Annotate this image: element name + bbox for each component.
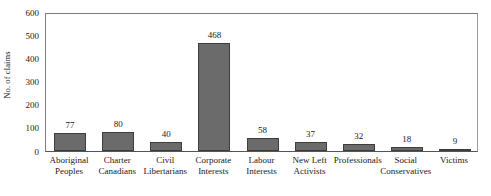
- bar-group: 18: [391, 14, 423, 151]
- plot-area: 778040468583732189: [45, 13, 478, 152]
- x-category-label-line: Activists: [280, 166, 340, 177]
- y-axis-title: No. of claims: [0, 0, 14, 150]
- y-tick-label: 400: [26, 55, 40, 64]
- bar: [150, 142, 182, 151]
- bar: [198, 43, 230, 151]
- bar-group: 9: [439, 14, 471, 151]
- y-tick-label: 300: [26, 78, 40, 87]
- bar: [102, 132, 134, 151]
- bar: [343, 144, 375, 151]
- x-category-label: Victims: [424, 155, 484, 166]
- y-tick-label: 500: [26, 32, 40, 41]
- bar-value-label: 80: [88, 120, 148, 129]
- bar: [247, 138, 279, 151]
- bar-value-label: 9: [425, 137, 485, 146]
- bar-chart-figure: No. of claims 6005004003002001000 778040…: [0, 0, 491, 196]
- bar-group: 58: [247, 14, 279, 151]
- bars-layer: 778040468583732189: [46, 14, 477, 151]
- bar-value-label: 40: [136, 130, 196, 139]
- bar-group: 32: [343, 14, 375, 151]
- y-axis-tick-labels: 6005004003002001000: [14, 0, 42, 160]
- bar-group: 37: [295, 14, 327, 151]
- bar: [295, 142, 327, 151]
- y-tick-label: 600: [26, 9, 40, 18]
- y-tick-label: 200: [26, 101, 40, 110]
- x-category-label-line: Victims: [424, 155, 484, 166]
- bar-group: 77: [54, 14, 86, 151]
- bar-group: 80: [102, 14, 134, 151]
- y-axis-title-text: No. of claims: [2, 51, 12, 98]
- x-axis-category-labels: AboriginalPeoplesCharterCanadiansCivilLi…: [45, 155, 478, 193]
- bar-group: 40: [150, 14, 182, 151]
- y-tick-label: 100: [26, 124, 40, 133]
- bar-value-label: 468: [184, 31, 244, 40]
- x-category-label-line: Conservatives: [376, 166, 436, 177]
- bar: [391, 147, 423, 151]
- bar-group: 468: [198, 14, 230, 151]
- bar: [439, 149, 471, 152]
- bar: [54, 133, 86, 151]
